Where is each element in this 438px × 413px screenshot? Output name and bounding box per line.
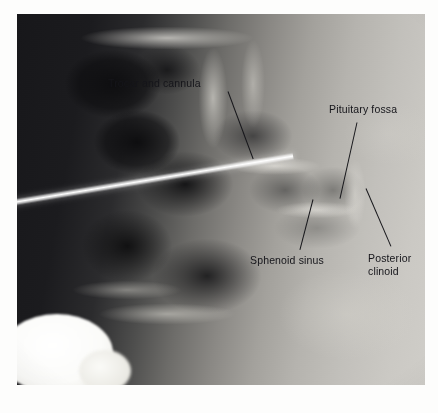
radiograph-plate xyxy=(17,14,425,385)
figure-page: Trocar and cannulaPituitary fossaSphenoi… xyxy=(0,0,438,413)
film-vignette xyxy=(17,14,425,385)
